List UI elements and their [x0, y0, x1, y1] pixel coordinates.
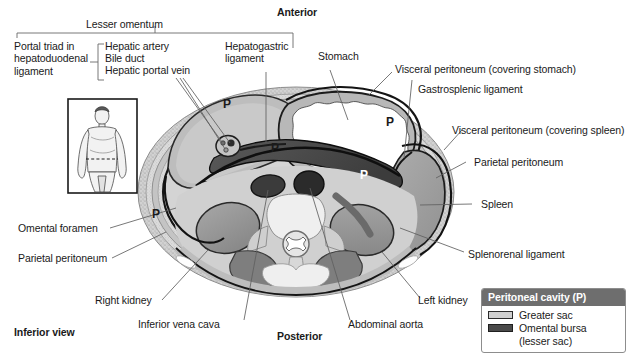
legend-header: Peritoneal cavity (P)	[482, 289, 625, 306]
cavity-marker-p-4: P	[152, 208, 160, 220]
portal-triad-bracket	[90, 44, 104, 80]
orientation-anterior: Anterior	[277, 6, 317, 18]
cavity-marker-p-3: P	[386, 116, 394, 128]
label-stomach: Stomach	[318, 50, 359, 62]
label-abdominal-aorta: Abdominal aorta	[348, 318, 423, 330]
label-gastrosplenic-ligament: Gastrosplenic ligament	[418, 83, 523, 95]
label-parietal-peritoneum-left: Parietal peritoneum	[18, 252, 107, 264]
label-inferior-vena-cava: Inferior vena cava	[138, 318, 220, 330]
label-left-kidney: Left kidney	[418, 294, 468, 306]
legend-label-greater-sac: Greater sac	[519, 309, 573, 321]
label-right-kidney: Right kidney	[95, 294, 152, 306]
label-parietal-peritoneum-right: Parietal peritoneum	[474, 156, 563, 168]
legend-label-omental-bursa: Omental bursa (lesser sac)	[519, 322, 620, 347]
abdominal-aorta	[294, 171, 324, 197]
bracket-label-lesser-omentum: Lesser omentum	[86, 18, 163, 30]
body-orientation-inset	[68, 99, 137, 193]
greater-sac-swatch	[488, 311, 513, 319]
label-hepatogastric-ligament: Hepatogastric ligament	[225, 40, 288, 65]
label-spleen: Spleen	[481, 198, 513, 210]
orientation-inferior-view: Inferior view	[14, 326, 75, 338]
label-splenorenal-ligament: Splenorenal ligament	[468, 248, 565, 260]
label-bile-duct: Bile duct	[105, 52, 144, 64]
label-portal-triad: Portal triad in hepatoduodenal ligament	[14, 40, 88, 77]
peritoneal-cavity-figure: Anterior Lesser omentum Portal triad in …	[0, 0, 638, 364]
legend-item-omental-bursa: Omental bursa (lesser sac)	[487, 322, 620, 347]
label-hepatic-portal-vein: Hepatic portal vein	[105, 64, 190, 76]
legend-item-greater-sac: Greater sac	[487, 309, 620, 321]
label-visceral-peritoneum-spleen: Visceral peritoneum (covering spleen)	[452, 124, 624, 136]
cavity-marker-p-1: P	[223, 98, 231, 110]
cavity-marker-p-2: P	[271, 142, 279, 154]
orientation-posterior: Posterior	[277, 330, 322, 342]
omental-bursa-swatch	[488, 324, 513, 332]
legend-peritoneal-cavity: Peritoneal cavity (P) Greater sac Omenta…	[481, 288, 626, 353]
label-omental-foramen: Omental foramen	[18, 222, 98, 234]
legend-body: Greater sac Omental bursa (lesser sac)	[482, 306, 625, 352]
cavity-marker-p-5: P	[360, 169, 368, 181]
label-hepatic-artery: Hepatic artery	[105, 40, 169, 52]
label-visceral-peritoneum-stomach: Visceral peritoneum (covering stomach)	[395, 63, 576, 75]
